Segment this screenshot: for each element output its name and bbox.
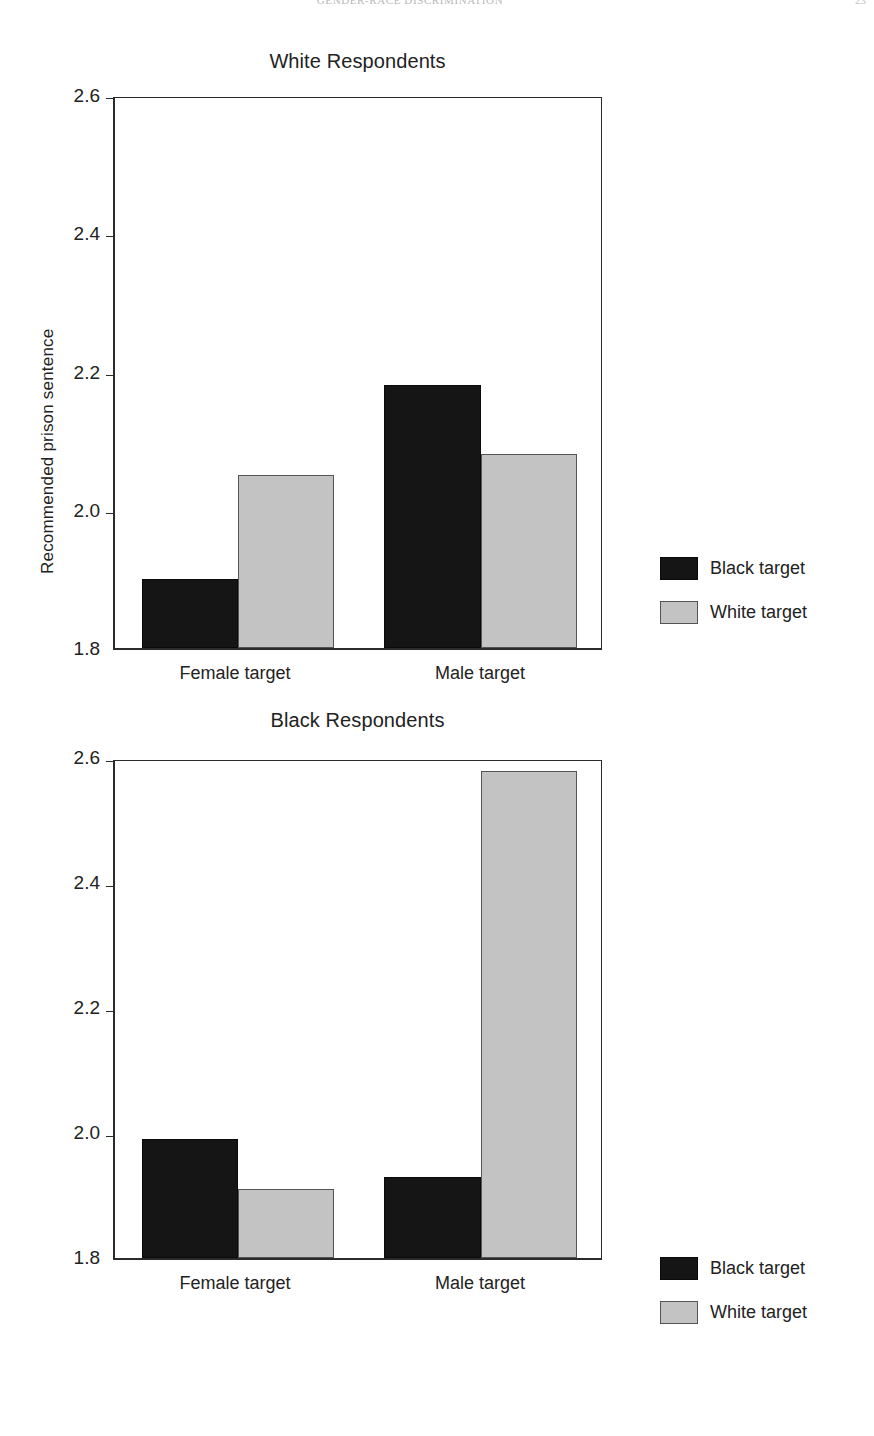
legend-white-respondents: Black target White target xyxy=(660,555,870,635)
bar-female-black-target-b xyxy=(142,1139,238,1258)
x-group-label-male-target: Male target xyxy=(385,663,575,684)
chart-black-respondents: Black Respondents Recommended prison sen… xyxy=(0,700,874,1436)
legend-label-black-target-b: Black target xyxy=(710,1258,805,1279)
y-tick-label-2.0: 2.0 xyxy=(50,500,100,522)
y-tick-mark-2.2 xyxy=(106,375,115,376)
bar-female-white-target-b xyxy=(238,1189,334,1258)
y-tick-mark-2.6-b xyxy=(106,761,115,762)
plot-area-white-respondents xyxy=(113,97,602,650)
legend-swatch-black-target-icon-b xyxy=(660,1257,698,1280)
bar-female-white-target xyxy=(238,475,334,648)
bar-male-white-target xyxy=(481,454,577,648)
y-tick-label-1.8-b: 1.8 xyxy=(50,1247,100,1269)
legend-label-white-target-b: White target xyxy=(710,1302,807,1323)
bar-male-black-target xyxy=(384,385,481,648)
legend-label-black-target: Black target xyxy=(710,558,805,579)
legend-swatch-white-target-icon-b xyxy=(660,1301,698,1324)
y-tick-label-2.2-b: 2.2 xyxy=(50,997,100,1019)
chart-title-white-respondents: White Respondents xyxy=(113,50,602,73)
y-tick-mark-2.0 xyxy=(106,513,115,514)
legend-swatch-white-target-icon xyxy=(660,601,698,624)
y-tick-label-2.4: 2.4 xyxy=(50,223,100,245)
y-tick-mark-2.6 xyxy=(106,98,115,99)
bar-male-black-target-b xyxy=(384,1177,481,1258)
x-group-label-male-target-b: Male target xyxy=(385,1273,575,1294)
y-tick-label-1.8: 1.8 xyxy=(50,638,100,660)
legend-item-black-target-b: Black target xyxy=(660,1255,805,1281)
chart-white-respondents: White Respondents Recommended prison sen… xyxy=(0,0,874,700)
y-tick-mark-2.2-b xyxy=(106,1011,115,1012)
x-group-label-female-target-b: Female target xyxy=(140,1273,330,1294)
legend-black-respondents: Black target White target xyxy=(660,1255,870,1335)
y-tick-mark-2.4 xyxy=(106,236,115,237)
legend-item-white-target-b: White target xyxy=(660,1299,807,1325)
legend-swatch-black-target-icon xyxy=(660,557,698,580)
legend-item-white-target: White target xyxy=(660,599,807,625)
legend-item-black-target: Black target xyxy=(660,555,805,581)
x-group-label-female-target: Female target xyxy=(140,663,330,684)
y-tick-mark-2.0-b xyxy=(106,1136,115,1137)
plot-area-black-respondents xyxy=(113,760,602,1260)
chart-title-black-respondents: Black Respondents xyxy=(113,709,602,732)
bar-male-white-target-b xyxy=(481,771,577,1259)
y-tick-mark-2.4-b xyxy=(106,886,115,887)
y-tick-label-2.2: 2.2 xyxy=(50,362,100,384)
y-tick-label-2.6-b: 2.6 xyxy=(50,747,100,769)
legend-label-white-target: White target xyxy=(710,602,807,623)
y-tick-label-2.6: 2.6 xyxy=(50,85,100,107)
y-tick-label-2.0-b: 2.0 xyxy=(50,1122,100,1144)
bar-female-black-target xyxy=(142,579,238,648)
y-tick-label-2.4-b: 2.4 xyxy=(50,872,100,894)
